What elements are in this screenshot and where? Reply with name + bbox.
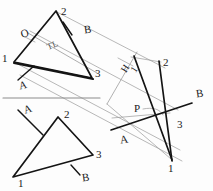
label-aux-vertex-2: 2 <box>163 56 169 68</box>
label-top-b: B <box>83 22 92 35</box>
label-front-vertex-3: 3 <box>96 148 102 160</box>
label-aux-point-p: P <box>134 102 140 114</box>
label-front-a: A <box>22 102 33 116</box>
projection-lines-group <box>14 12 182 161</box>
label-aux-vertex-1: 1 <box>168 162 174 174</box>
label-aux-a: A <box>119 132 129 145</box>
label-top-vertex-3: 3 <box>95 67 101 79</box>
label-top-vertex-2: 2 <box>61 5 67 17</box>
label-top-a: A <box>18 78 28 91</box>
label-front-vertex-2: 2 <box>64 108 70 120</box>
top-view-edge-1-3 <box>14 63 93 79</box>
front-view-triangle <box>13 117 93 177</box>
descriptive-geometry-sketch: 2 1 3 O A B TL 2 3 1 A B 2 3 1 A B P H 1 <box>0 0 213 191</box>
label-aux-vertex-3: 3 <box>177 118 183 130</box>
front-view-triangle-outline <box>13 117 93 177</box>
sketch-canvas: 2 1 3 O A B TL 2 3 1 A B 2 3 1 A B P H 1 <box>0 0 213 191</box>
leader-tick-front-b <box>71 165 80 175</box>
label-top-vertex-1: 1 <box>2 52 8 64</box>
label-front-vertex-1: 1 <box>18 177 24 189</box>
label-aux-b: B <box>195 86 204 99</box>
label-front-b: B <box>81 170 90 183</box>
label-top-o: O <box>19 26 30 40</box>
